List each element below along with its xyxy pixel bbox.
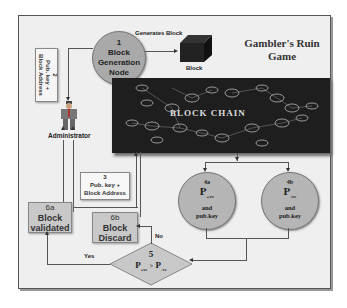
box-label: Pub. key + — [81, 181, 129, 189]
box-label: Block — [29, 213, 71, 223]
title-line2: Game — [232, 50, 332, 63]
connector — [68, 48, 69, 98]
connector — [139, 226, 151, 227]
arrow-icon — [61, 126, 65, 130]
step6b-box: 6b Block Discard — [92, 212, 138, 243]
comparison-operator: > — [150, 263, 153, 269]
node-label: Block — [93, 48, 145, 58]
arrow-icon — [45, 231, 49, 235]
node-label: pub.key — [262, 212, 318, 220]
administrator-label: Administrator — [48, 132, 91, 139]
generates-block-label: Generates Block — [135, 30, 182, 36]
yes-label: Yes — [84, 253, 94, 259]
node-label: pub.key — [179, 212, 235, 220]
arrow-icon — [235, 157, 239, 161]
no-label: No — [155, 233, 163, 239]
probability-subscript: -ve — [161, 267, 167, 272]
connector — [140, 152, 141, 217]
connector — [145, 51, 175, 52]
blockchain-label: BLOCK CHAIN — [170, 108, 246, 118]
node-label: Generation — [93, 58, 145, 68]
node-label: Node — [93, 68, 145, 78]
arrow-icon — [71, 126, 75, 130]
probability-subscript: -ve — [290, 194, 296, 199]
blockchain-network: BLOCK CHAIN — [112, 78, 330, 153]
arrow-icon — [136, 224, 140, 228]
box-label: Block — [93, 223, 137, 233]
connector — [288, 228, 289, 238]
step5-decision: 5 P+ve > P-ve — [109, 242, 193, 286]
connector — [205, 162, 288, 163]
step-number: 6a — [29, 203, 71, 213]
step4a-node: 4a P+ve and pub.key — [178, 172, 236, 230]
step-number: 1 — [93, 38, 145, 48]
probability-subscript: +ve — [141, 267, 148, 272]
step2-box: 2 Pub. key + Block Address — [35, 48, 58, 102]
box-label: validated — [29, 223, 71, 233]
connector — [47, 232, 48, 264]
probability-symbol: P — [200, 185, 207, 197]
node-label: and — [262, 203, 318, 212]
step3-box: 3 Pub. key + Block Address — [80, 172, 130, 200]
step-number: 3 — [81, 173, 129, 181]
connector — [68, 48, 93, 49]
step6a-box: 6a Block validated — [28, 202, 72, 233]
node-label: and — [179, 203, 235, 212]
box-label: Block Address — [36, 54, 43, 96]
connector — [246, 238, 247, 260]
block-generation-node: 1 Block Generation Node — [92, 31, 146, 85]
box-label: Block Address — [81, 189, 129, 197]
diagram-title: Gambler's Ruin Game — [232, 37, 332, 63]
connector — [47, 264, 110, 265]
connector — [136, 152, 137, 207]
block-cube-icon — [178, 33, 214, 63]
step-number: 2 — [50, 54, 57, 96]
connector — [151, 226, 152, 244]
connector — [206, 238, 289, 239]
block-label: Block — [186, 65, 202, 71]
step-number: 6b — [93, 213, 137, 223]
arrow-icon — [134, 152, 138, 156]
title-line1: Gambler's Ruin — [232, 37, 332, 50]
step4b-node: 4b P-ve and pub.key — [261, 172, 319, 230]
connector — [192, 260, 247, 261]
probability-subscript: +ve — [207, 194, 215, 199]
step-number: 5 — [109, 249, 193, 259]
connector — [73, 207, 138, 208]
connector — [206, 228, 207, 238]
connector — [73, 140, 74, 212]
box-label: Pub. key + — [43, 54, 50, 96]
